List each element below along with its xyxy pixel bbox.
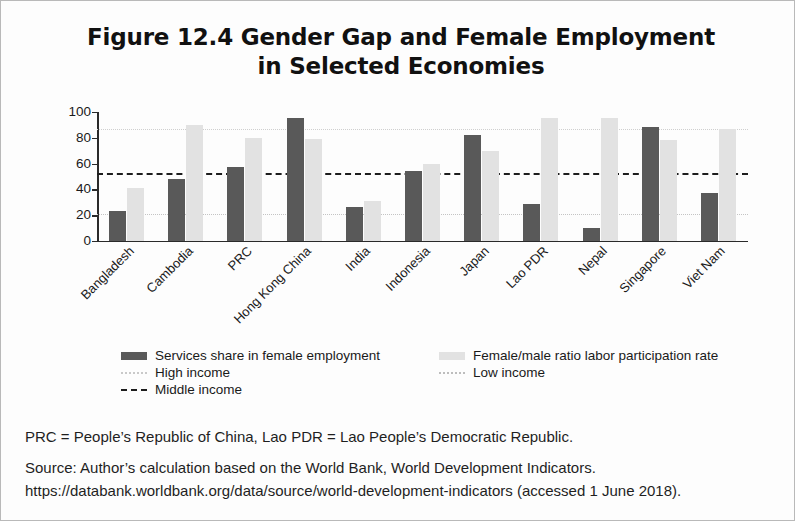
bar-female-male-ratio [127,188,144,241]
legend-item-female-male-ratio-labor-participation-rate[interactable]: Female/male ratio labor participation ra… [439,349,718,363]
legend-swatch-icon [439,352,465,360]
legend-item-low-income[interactable]: Low income [439,366,545,380]
legend-swatch-icon [121,389,147,391]
bar-group [464,112,499,241]
y-axis-tick-label: 60 [57,157,91,171]
y-axis-tick-label: 40 [57,183,91,197]
legend-label: Low income [473,366,545,380]
bar-group [287,112,322,241]
bar-services-share [464,135,481,241]
bar-group [227,112,262,241]
bar-female-male-ratio [541,118,558,241]
bar-services-share [227,167,244,241]
bar-services-share [287,118,304,241]
bar-female-male-ratio [482,151,499,241]
bar-female-male-ratio [245,138,262,241]
bar-group [523,112,558,241]
bar-services-share [168,179,185,241]
note-source-text: Source: Author’s calculation based on th… [25,459,596,476]
legend-swatch-icon [121,352,147,360]
legend-item-high-income[interactable]: High income [121,366,230,380]
legend-swatch-icon [121,372,147,374]
legend-item-services-share-in-female-employment[interactable]: Services share in female employment [121,349,380,363]
y-axis-tick-label: 80 [57,131,91,145]
bar-female-male-ratio [601,118,618,241]
bar-group [109,112,144,241]
y-axis-tick-label: 100 [57,105,91,119]
bar-services-share [405,171,422,241]
bar-services-share [701,193,718,241]
y-axis-tick-mark [92,189,98,190]
y-axis-tick-mark [92,215,98,216]
bar-services-share [523,204,540,241]
y-axis-tick-mark [92,241,98,242]
legend-label: Middle income [155,383,242,397]
y-axis-tick-label: 20 [57,208,91,222]
x-axis-category-labels: BangladeshCambodiaPRCHong Kong ChinaIndi… [97,244,748,324]
bar-female-male-ratio [305,139,322,241]
y-axis-tick-label: 0 [57,234,91,248]
legend-label: Female/male ratio labor participation ra… [473,349,718,363]
bar-group [346,112,381,241]
bars-layer [97,112,748,241]
bar-group [701,112,736,241]
figure-title-line-2: in Selected Economies [61,52,741,81]
note-source: Source: Author’s calculation based on th… [25,456,775,502]
y-axis-tick-mark [92,164,98,165]
legend-item-middle-income[interactable]: Middle income [121,383,242,397]
bar-female-male-ratio [364,201,381,241]
bar-services-share [642,127,659,241]
legend-label: Services share in female employment [155,349,380,363]
figure-container: Figure 12.4 Gender Gap and Female Employ… [0,0,795,521]
bar-female-male-ratio [719,129,736,241]
bar-services-share [583,228,600,241]
bar-group [642,112,677,241]
y-axis-tick-mark [92,138,98,139]
y-axis-tick-labels: 020406080100 [57,101,91,251]
note-source-url: https://databank.worldbank.org/data/sour… [25,479,775,502]
bar-group [583,112,618,241]
y-axis-tick-mark [92,112,98,113]
chart-legend: Services share in female employmentFemal… [121,349,761,401]
bar-group [405,112,440,241]
bar-services-share [109,211,126,241]
figure-notes: PRC = People’s Republic of China, Lao PD… [25,425,775,502]
bar-group [168,112,203,241]
bar-services-share [346,207,363,241]
chart-plot-area: 020406080100 [1,101,795,251]
figure-title-line-1: Figure 12.4 Gender Gap and Female Employ… [61,23,741,52]
bar-female-male-ratio [423,164,440,241]
bar-female-male-ratio [660,140,677,241]
bar-female-male-ratio [186,125,203,241]
legend-label: High income [155,366,230,380]
note-abbreviations: PRC = People’s Republic of China, Lao PD… [25,425,775,448]
legend-swatch-icon [439,372,465,374]
figure-title: Figure 12.4 Gender Gap and Female Employ… [61,23,741,81]
